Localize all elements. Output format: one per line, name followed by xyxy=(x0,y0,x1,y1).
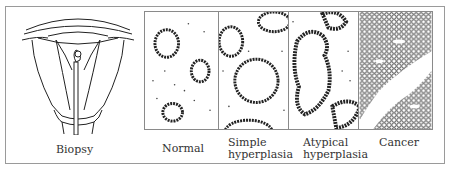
label-simple-hyperplasia: Simple hyperplasia xyxy=(228,137,288,161)
panel-simple-hyperplasia xyxy=(219,12,289,129)
normal-tissue-drawing xyxy=(145,12,218,129)
label-cancer: Cancer xyxy=(379,137,419,149)
panel-cancer xyxy=(359,12,432,129)
uterus-biopsy-illustration xyxy=(18,10,138,135)
label-normal: Normal xyxy=(162,143,204,155)
label-atypical-hyperplasia: Atypical hyperplasia xyxy=(303,137,363,161)
histology-strip xyxy=(144,11,433,130)
panel-normal xyxy=(145,12,219,129)
biopsy-label: Biopsy xyxy=(56,143,93,156)
simple-hyperplasia-tissue-drawing xyxy=(219,12,288,129)
cancer-tissue-drawing xyxy=(359,12,432,129)
atypical-hyperplasia-tissue-drawing xyxy=(289,12,358,129)
panel-atypical-hyperplasia xyxy=(289,12,359,129)
